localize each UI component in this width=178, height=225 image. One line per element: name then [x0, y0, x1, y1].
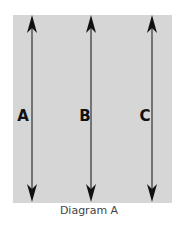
diagram-caption: Diagram A — [0, 204, 178, 217]
label-b: B — [79, 107, 90, 125]
label-c: C — [139, 107, 150, 125]
label-a: A — [17, 107, 29, 125]
